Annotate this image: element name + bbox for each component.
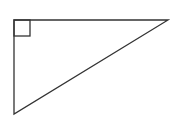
right-triangle-diagram — [0, 0, 187, 121]
right-angle-marker — [14, 20, 30, 36]
triangle — [14, 20, 168, 114]
